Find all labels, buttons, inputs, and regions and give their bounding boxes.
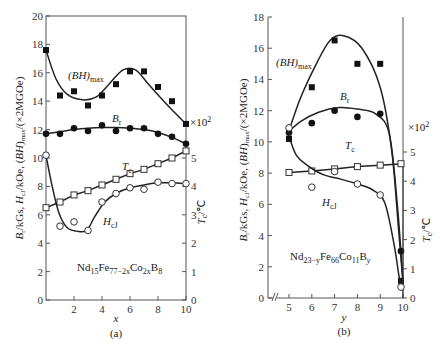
data-point-filled-circle bbox=[141, 125, 148, 132]
data-point-filled-circle bbox=[354, 114, 361, 121]
label-hcj: HcJ bbox=[321, 196, 337, 211]
x-tick-label: 6 bbox=[127, 303, 133, 315]
data-point-filled-circle bbox=[127, 125, 134, 132]
x-tick-label: 5 bbox=[286, 301, 292, 313]
data-point-open-circle bbox=[286, 125, 293, 132]
y2-tick-label: 4 bbox=[191, 180, 197, 192]
y2-tick-label: 0 bbox=[191, 294, 197, 306]
series-br bbox=[43, 122, 190, 147]
data-point-filled-circle bbox=[169, 133, 176, 140]
y-tick-label: 0 bbox=[38, 294, 44, 306]
data-point-open-circle bbox=[354, 181, 361, 188]
data-point-open-square bbox=[286, 169, 292, 175]
right-axis-multiplier: ×102 bbox=[190, 115, 211, 128]
data-point-filled-circle bbox=[155, 131, 162, 138]
y2-tick-label: 5 bbox=[191, 152, 197, 164]
y-tick-label: 8 bbox=[259, 167, 265, 179]
data-point-filled-circle bbox=[183, 141, 190, 148]
y-axis-label-right: Tc/℃ bbox=[420, 218, 434, 243]
data-point-filled-square bbox=[309, 84, 315, 90]
y-tick-label: 0 bbox=[259, 292, 265, 304]
data-point-open-square bbox=[155, 161, 161, 167]
data-point-filled-circle bbox=[331, 107, 338, 114]
data-point-open-square bbox=[57, 199, 63, 205]
y-tick-label: 4 bbox=[259, 230, 265, 242]
data-point-open-square bbox=[377, 162, 383, 168]
y-tick-label: 10 bbox=[32, 152, 44, 164]
data-point-open-circle bbox=[377, 192, 384, 199]
data-point-filled-square bbox=[71, 88, 77, 94]
y-axis-label-left: Br/kGs, HcJ/kOe, (BH)max/(×2MGOe) bbox=[13, 76, 27, 239]
label-br: Br bbox=[112, 112, 122, 127]
label-hcj: HcJ bbox=[102, 215, 118, 230]
data-point-filled-circle bbox=[43, 131, 50, 138]
y-tick-label: 18 bbox=[253, 11, 265, 23]
y-tick-label: 20 bbox=[32, 10, 44, 22]
y-tick-label: 10 bbox=[253, 136, 265, 148]
figure: 02468101214161820012345246810×102(BH)max… bbox=[0, 0, 440, 351]
data-point-open-square bbox=[169, 155, 175, 161]
data-point-open-square bbox=[113, 176, 119, 182]
label-bhmax: (BH)max bbox=[68, 69, 104, 84]
data-point-open-circle bbox=[141, 186, 148, 193]
data-point-open-circle bbox=[398, 284, 405, 291]
data-point-open-circle bbox=[155, 179, 162, 186]
data-point-filled-square bbox=[332, 37, 338, 43]
data-point-filled-circle bbox=[57, 131, 64, 138]
data-point-open-square bbox=[43, 205, 49, 211]
data-point-open-square bbox=[354, 164, 360, 170]
series-tc bbox=[43, 148, 189, 211]
label-bhmax: (BH)max bbox=[276, 56, 312, 71]
label-br: Br bbox=[340, 90, 350, 105]
data-point-filled-square bbox=[155, 84, 161, 90]
data-point-filled-square bbox=[113, 81, 119, 87]
x-axis-label: x bbox=[113, 312, 119, 324]
x-tick-label: 10 bbox=[398, 301, 410, 313]
data-point-filled-square bbox=[85, 102, 91, 108]
data-point-filled-square bbox=[141, 68, 147, 74]
data-point-open-circle bbox=[169, 180, 176, 187]
y-tick-label: 6 bbox=[259, 198, 265, 210]
data-point-open-square bbox=[141, 166, 147, 172]
composition-label: Nd15Fe77−2xCo2xB8 bbox=[77, 261, 162, 276]
data-point-filled-circle bbox=[85, 128, 92, 135]
data-point-open-circle bbox=[85, 227, 92, 234]
chart-b: 0246810121416180123455678910×102(BH)maxB… bbox=[237, 11, 434, 338]
data-point-filled-square bbox=[99, 93, 105, 99]
y2-tick-label: 4 bbox=[410, 175, 416, 187]
y-tick-label: 2 bbox=[38, 266, 44, 278]
y-tick-label: 8 bbox=[38, 180, 44, 192]
y-tick-label: 16 bbox=[253, 42, 265, 54]
y-tick-label: 4 bbox=[38, 237, 44, 249]
y-tick-label: 12 bbox=[32, 124, 43, 136]
data-point-open-square bbox=[85, 188, 91, 194]
data-point-filled-square bbox=[127, 68, 133, 74]
y-axis-label-left: Br/kGs, HcJ/kOe, (BH)max/(×2MGOe) bbox=[237, 78, 251, 241]
right-axis-multiplier: ×102 bbox=[408, 120, 429, 133]
y-tick-label: 2 bbox=[259, 261, 265, 273]
data-point-open-circle bbox=[99, 199, 106, 206]
label-tc: Tc bbox=[345, 139, 355, 154]
x-tick-label: 4 bbox=[99, 303, 105, 315]
composition-label: Nd23−yFe66Co11By bbox=[290, 250, 371, 265]
y-axis-label-right: Tc/℃ bbox=[195, 200, 209, 225]
x-tick-label: 8 bbox=[155, 303, 161, 315]
y2-tick-label: 1 bbox=[410, 263, 416, 275]
plot-frame bbox=[46, 16, 186, 300]
x-tick-label: 8 bbox=[355, 301, 361, 313]
y-tick-label: 18 bbox=[32, 38, 44, 50]
data-point-open-square bbox=[71, 192, 77, 198]
data-point-filled-circle bbox=[99, 122, 106, 129]
y-tick-label: 16 bbox=[32, 67, 44, 79]
data-point-filled-square bbox=[286, 136, 292, 142]
y2-tick-label: 2 bbox=[191, 237, 197, 249]
axis-break-icon bbox=[272, 293, 278, 301]
series-tc bbox=[286, 161, 404, 298]
caption-b: (b) bbox=[338, 325, 351, 338]
data-point-open-circle bbox=[71, 219, 78, 226]
y-tick-label: 14 bbox=[32, 95, 44, 107]
data-point-open-circle bbox=[331, 168, 338, 175]
data-point-open-square bbox=[99, 182, 105, 188]
data-point-open-circle bbox=[57, 223, 64, 230]
data-point-filled-square bbox=[57, 93, 63, 99]
